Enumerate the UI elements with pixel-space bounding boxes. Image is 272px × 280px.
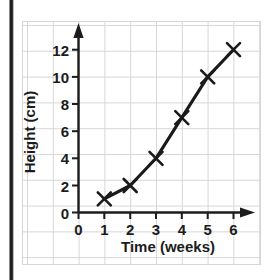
y-axis-arrow-icon xyxy=(73,23,83,38)
x-tick-label: 4 xyxy=(178,222,186,237)
y-axis-title: Height (cm) xyxy=(21,91,38,174)
y-tick-label: 0 xyxy=(52,205,69,220)
data-point-marker xyxy=(150,152,163,165)
data-point-marker xyxy=(175,111,188,124)
x-tick-label: 2 xyxy=(126,222,134,237)
y-tick-label: 8 xyxy=(52,97,69,112)
x-axis-arrow-icon xyxy=(240,207,255,217)
x-tick-label: 1 xyxy=(100,222,108,237)
y-tick-label: 10 xyxy=(43,69,69,84)
y-tick-label: 12 xyxy=(43,42,69,57)
y-tick-label: 4 xyxy=(52,151,69,166)
chart-page: 0 2 4 6 8 10 12 0 1 2 3 4 5 6 Time (week… xyxy=(0,0,272,280)
data-point-marker xyxy=(227,43,240,56)
y-tick-label: 2 xyxy=(52,178,69,193)
data-point-marker xyxy=(201,70,214,83)
x-tick-label: 6 xyxy=(229,222,237,237)
x-tick-label: 3 xyxy=(152,222,160,237)
x-tick-label: 0 xyxy=(74,222,82,237)
x-tick-label: 5 xyxy=(204,222,212,237)
data-point-marker xyxy=(98,192,111,205)
y-tick-label: 6 xyxy=(52,124,69,139)
data-point-marker xyxy=(124,179,137,192)
x-axis-title: Time (weeks) xyxy=(78,238,258,255)
